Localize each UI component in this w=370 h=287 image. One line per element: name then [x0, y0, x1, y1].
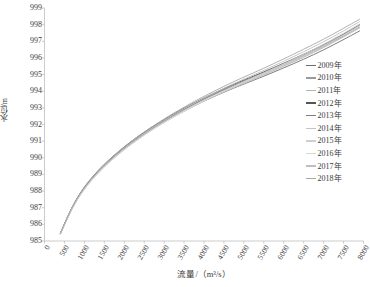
- legend-line-swatch: [306, 115, 316, 116]
- legend-item[interactable]: 2014年: [306, 122, 368, 135]
- legend-line-swatch: [306, 90, 316, 91]
- legend-label: 2015年: [318, 136, 342, 145]
- legend-line-swatch: [306, 77, 316, 78]
- legend-label: 2018年: [318, 174, 342, 183]
- legend-item[interactable]: 2011年: [306, 84, 368, 97]
- legend-label: 2013年: [318, 111, 342, 120]
- legend-line-swatch: [306, 178, 316, 179]
- legend-item[interactable]: 2012年: [306, 97, 368, 110]
- legend-label: 2016年: [318, 149, 342, 158]
- legend-item[interactable]: 2009年: [306, 59, 368, 72]
- legend: 2009年2010年2011年2012年2013年2014年2015年2016年…: [306, 59, 368, 185]
- legend-label: 2011年: [318, 86, 342, 95]
- legend-item[interactable]: 2018年: [306, 172, 368, 185]
- line-chart: 水位/m 98598698798898999099199299399499599…: [0, 0, 370, 287]
- legend-item[interactable]: 2013年: [306, 109, 368, 122]
- legend-label: 2014年: [318, 124, 342, 133]
- legend-item[interactable]: 2016年: [306, 147, 368, 160]
- legend-line-swatch: [306, 65, 316, 66]
- legend-line-swatch: [306, 153, 316, 154]
- legend-item[interactable]: 2010年: [306, 72, 368, 85]
- legend-item[interactable]: 2015年: [306, 135, 368, 148]
- legend-item[interactable]: 2017年: [306, 160, 368, 173]
- legend-line-swatch: [306, 128, 316, 129]
- legend-line-swatch: [306, 165, 316, 166]
- legend-label: 2010年: [318, 73, 342, 82]
- legend-label: 2012年: [318, 99, 342, 108]
- legend-line-swatch: [306, 140, 316, 141]
- legend-line-swatch: [306, 102, 316, 103]
- legend-label: 2017年: [318, 162, 342, 171]
- legend-label: 2009年: [318, 61, 342, 70]
